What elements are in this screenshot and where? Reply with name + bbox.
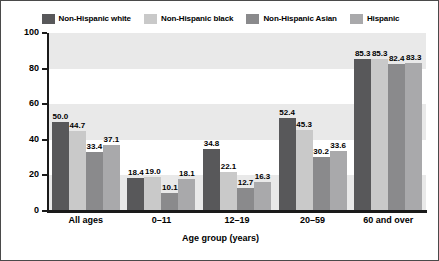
bar: 33.6: [330, 151, 347, 211]
bar-value-label: 82.4: [389, 54, 405, 63]
bar-value-label: 18.1: [179, 169, 195, 178]
bar-value-label: 44.7: [70, 121, 86, 130]
bar: 52.4: [279, 118, 296, 211]
bar-value-label: 52.4: [279, 108, 295, 117]
bar-value-label: 19.0: [145, 167, 161, 176]
bar: 37.1: [103, 145, 120, 211]
bar-value-label: 22.1: [221, 162, 237, 171]
legend-label: Non-Hispanic Asian: [263, 14, 336, 24]
bar-value-label: 85.3: [372, 49, 388, 58]
legend-item: Non-Hispanic white: [42, 14, 131, 24]
bar-value-label: 33.4: [87, 142, 103, 151]
y-axis-tick: [42, 210, 47, 212]
bar-value-label: 16.3: [255, 172, 271, 181]
bar: 44.7: [69, 131, 86, 211]
legend-item: Non-Hispanic black: [144, 14, 233, 24]
bar-value-label: 50.0: [53, 112, 69, 121]
bar-value-label: 45.3: [296, 120, 312, 129]
legend-item: Non-Hispanic Asian: [246, 14, 336, 24]
chart-figure: Non-Hispanic whiteNon-Hispanic blackNon-…: [0, 0, 439, 261]
bar: 82.4: [388, 64, 405, 211]
chart-legend: Non-Hispanic whiteNon-Hispanic blackNon-…: [1, 14, 439, 24]
bar: 85.3: [371, 59, 388, 211]
bar-value-label: 83.3: [406, 53, 422, 62]
y-axis-tick-label: 40: [1, 135, 39, 144]
y-axis-tick: [42, 174, 47, 176]
x-axis-category-label: 12–19: [199, 215, 275, 226]
y-axis-tick: [42, 68, 47, 70]
legend-label: Hispanic: [367, 14, 400, 24]
x-axis-line: [47, 210, 427, 213]
bar: 12.7: [237, 188, 254, 211]
x-axis-title: Age group (years): [1, 233, 439, 243]
y-axis-tick-label: 60: [1, 99, 39, 108]
bar-value-label: 30.2: [313, 147, 329, 156]
bar-group: 18.419.010.118.1: [127, 33, 195, 211]
y-axis-tick: [42, 103, 47, 105]
x-axis-category-label: All ages: [48, 215, 124, 226]
bar: 50.0: [52, 122, 69, 211]
bar-group: 52.445.330.233.6: [279, 33, 347, 211]
legend-swatch-icon: [246, 14, 259, 24]
bar: 19.0: [144, 177, 161, 211]
bar: 22.1: [220, 172, 237, 211]
bar: 34.8: [203, 149, 220, 211]
bar: 18.1: [178, 179, 195, 211]
x-axis-category-label: 20–59: [275, 215, 351, 226]
y-axis-line: [47, 33, 49, 212]
x-axis-category-label: 0–11: [124, 215, 200, 226]
legend-label: Non-Hispanic black: [161, 14, 233, 24]
bar-group: 85.385.382.483.3: [354, 33, 422, 211]
bar-value-label: 37.1: [104, 135, 120, 144]
legend-swatch-icon: [350, 14, 363, 24]
bar: 18.4: [127, 178, 144, 211]
y-axis-tick-label: 0: [1, 206, 39, 215]
legend-item: Hispanic: [350, 14, 400, 24]
bar: 85.3: [354, 59, 371, 211]
bar-value-label: 85.3: [355, 49, 371, 58]
bar-value-label: 33.6: [330, 141, 346, 150]
bar: 10.1: [161, 193, 178, 211]
bar: 16.3: [254, 182, 271, 211]
bar-value-label: 10.1: [162, 183, 178, 192]
y-axis-tick-label: 20: [1, 170, 39, 179]
bar: 83.3: [405, 63, 422, 211]
plot-area: 50.044.733.437.118.419.010.118.134.822.1…: [48, 33, 426, 211]
legend-swatch-icon: [144, 14, 157, 24]
bar-group: 34.822.112.716.3: [203, 33, 271, 211]
bar-value-label: 12.7: [238, 178, 254, 187]
bar: 30.2: [313, 157, 330, 211]
y-axis-tick-label: 100: [1, 28, 39, 37]
bar: 45.3: [296, 130, 313, 211]
legend-label: Non-Hispanic white: [59, 14, 131, 24]
bar-value-label: 34.8: [204, 139, 220, 148]
bar-value-label: 18.4: [128, 168, 144, 177]
y-axis-tick-label: 80: [1, 64, 39, 73]
bar: 33.4: [86, 152, 103, 211]
bar-group: 50.044.733.437.1: [52, 33, 120, 211]
y-axis-tick: [42, 139, 47, 141]
legend-swatch-icon: [42, 14, 55, 24]
y-axis-tick: [42, 32, 47, 34]
x-axis-category-label: 60 and over: [350, 215, 426, 226]
